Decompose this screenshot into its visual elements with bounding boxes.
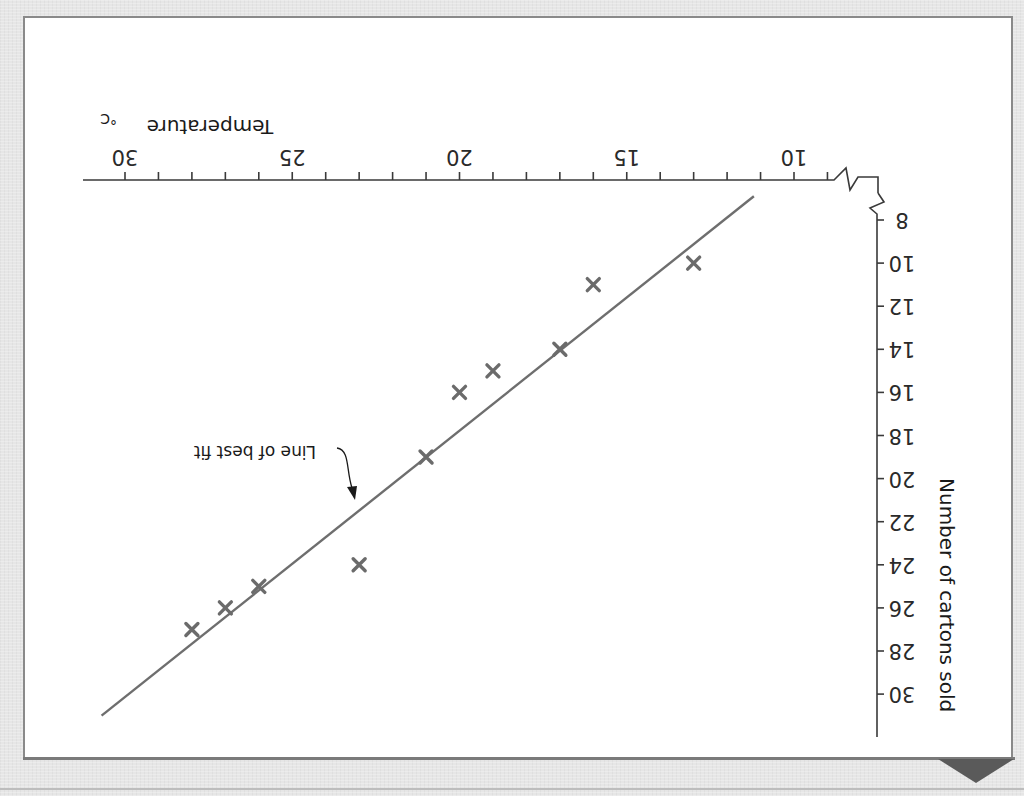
x-tick-labels: 1015202530 — [112, 145, 808, 169]
y-axis-title: Number of cartons sold — [935, 478, 959, 712]
y-tick-label: 26 — [889, 596, 916, 620]
x-axis-ticks — [125, 172, 827, 180]
data-point-x-marker — [420, 451, 432, 463]
y-axis-title-group: Number of cartons sold — [935, 478, 959, 712]
y-tick-label: 22 — [889, 510, 916, 534]
data-point-x-marker — [587, 279, 599, 291]
data-point-x-marker — [554, 343, 566, 355]
data-point-x-marker — [688, 257, 700, 269]
y-tick-label: 10 — [889, 251, 916, 275]
y-tick-label: 28 — [889, 639, 916, 663]
y-tick-label: 14 — [889, 337, 916, 361]
x-tick-label: 15 — [613, 145, 640, 169]
annotation-arrow — [337, 448, 352, 488]
x-tick-label: 30 — [112, 145, 139, 169]
data-point-x-marker — [487, 365, 499, 377]
y-tick-labels: 81012141618202224262830 — [889, 208, 916, 706]
y-tick-label: 12 — [889, 294, 916, 318]
y-axis-ticks — [877, 220, 884, 694]
scatter-chart: 1015202530 Temperature °C 81012141618202… — [0, 0, 1024, 796]
y-axis-line — [870, 193, 884, 737]
x-axis-title-group: Temperature °C — [100, 111, 274, 139]
y-axis — [870, 193, 884, 737]
y-tick-label: 20 — [889, 467, 916, 491]
x-axis-unit: °C — [100, 111, 117, 127]
x-tick-label: 20 — [446, 145, 473, 169]
y-tick-label: 18 — [889, 424, 916, 448]
x-tick-label: 10 — [781, 145, 808, 169]
data-point-x-marker — [219, 602, 231, 614]
x-axis-title: Temperature — [147, 115, 275, 139]
data-point-x-marker — [454, 386, 466, 398]
x-axis — [83, 168, 878, 193]
x-tick-label: 25 — [279, 145, 306, 169]
y-tick-label: 16 — [889, 380, 916, 404]
data-point-x-marker — [353, 559, 365, 571]
annotation-group: Line of best fit — [194, 442, 357, 500]
y-tick-label: 8 — [895, 208, 908, 232]
data-point-x-marker — [186, 623, 198, 635]
x-axis-line — [83, 168, 878, 193]
y-tick-label: 24 — [889, 553, 916, 577]
y-tick-label: 30 — [889, 682, 916, 706]
arrow-head-icon — [347, 486, 357, 500]
annotation-label: Line of best fit — [194, 442, 317, 462]
